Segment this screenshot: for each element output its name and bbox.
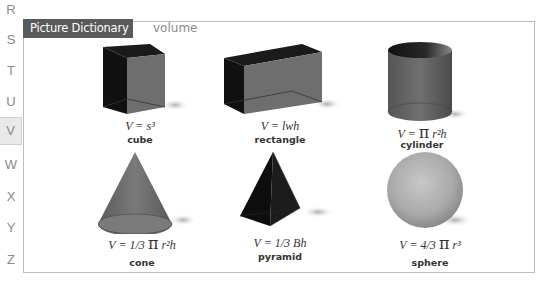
cube-label: cube xyxy=(100,134,180,145)
letter-y[interactable]: Y xyxy=(0,220,22,235)
page-title: Picture Dictionary xyxy=(23,19,133,38)
letter-u[interactable]: U xyxy=(0,94,22,109)
letter-w[interactable]: W xyxy=(0,157,22,172)
pyramid-image xyxy=(240,150,340,230)
cone-formula: V = 1/3 π r²h xyxy=(92,234,192,253)
rectangle-formula: V = lwh xyxy=(240,119,320,134)
rectangular-prism-image xyxy=(222,44,342,116)
pyramid-formula: V = 1/3 Bh xyxy=(240,236,320,251)
letter-s[interactable]: S xyxy=(0,32,22,47)
letter-t[interactable]: T xyxy=(0,63,22,78)
letter-x[interactable]: X xyxy=(0,189,22,204)
cube-image xyxy=(95,44,190,116)
cylinder-label: cylinder xyxy=(382,139,462,150)
letter-r[interactable]: R xyxy=(0,2,22,17)
alphabet-nav: R S T U V W X Y Z xyxy=(0,0,22,283)
rectangle-label: rectangle xyxy=(240,134,320,145)
cylinder-image xyxy=(385,42,470,126)
cube-formula: V = s³ xyxy=(100,119,180,134)
sphere-label: sphere xyxy=(385,257,475,268)
pyramid-label: pyramid xyxy=(240,251,320,262)
sphere-image xyxy=(383,150,483,234)
entry-word: volume xyxy=(153,21,197,35)
cone-image xyxy=(98,150,198,234)
letter-z[interactable]: Z xyxy=(0,252,22,267)
cone-label: cone xyxy=(92,257,192,268)
letter-v[interactable]: V xyxy=(0,117,22,145)
sphere-formula: V = 4/3 π r³ xyxy=(385,234,475,253)
